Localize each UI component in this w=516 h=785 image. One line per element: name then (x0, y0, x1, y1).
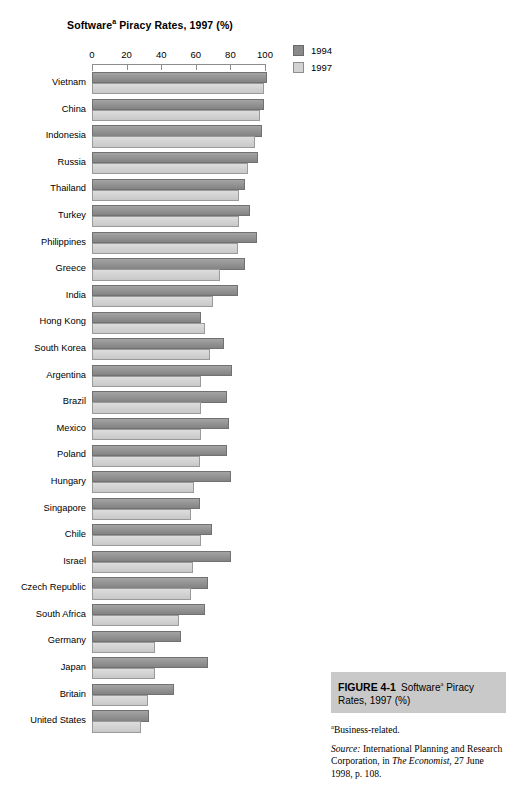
bar-fill (93, 419, 228, 428)
bar-1997-china (92, 110, 260, 121)
bar-fill (93, 563, 192, 572)
bar-1997-mexico (92, 429, 201, 440)
bar-fill (93, 126, 261, 135)
bar-fill (93, 217, 238, 226)
category-label-chile: Chile (0, 529, 86, 539)
bar-fill (93, 605, 204, 614)
bar-group (92, 656, 267, 683)
bar-fill (93, 658, 207, 667)
x-tick-label-60: 60 (181, 49, 211, 60)
bar-fill (93, 297, 212, 306)
category-label-south-korea: South Korea (0, 343, 86, 353)
bar-row: Britain (0, 683, 300, 710)
bar-fill (93, 350, 209, 359)
source-label: Source: (331, 743, 360, 754)
category-label-india: India (0, 290, 86, 300)
bar-row: Chile (0, 523, 300, 550)
bar-1997-brazil (92, 402, 201, 413)
category-label-hungary: Hungary (0, 476, 86, 486)
category-label-turkey: Turkey (0, 210, 86, 220)
category-label-russia: Russia (0, 157, 86, 167)
bar-fill (93, 392, 226, 401)
bar-group (92, 523, 267, 550)
bar-1994-indonesia (92, 125, 262, 136)
caption-header: FIGURE 4-1 Softwarea Piracy Rates, 1997 … (331, 672, 506, 713)
bar-group (92, 98, 267, 125)
bar-1994-russia (92, 152, 258, 163)
figure-number: FIGURE 4-1 (338, 681, 396, 693)
bar-1994-argentina (92, 365, 232, 376)
bar-1997-germany (92, 642, 155, 653)
bar-fill (93, 525, 211, 534)
bar-row: Japan (0, 656, 300, 683)
bar-fill (93, 366, 231, 375)
bar-fill (93, 73, 266, 82)
bar-1997-hong-kong (92, 323, 205, 334)
footnote-text: Business-related. (334, 724, 400, 735)
bar-row: Poland (0, 443, 300, 470)
bar-1997-indonesia (92, 136, 255, 147)
bar-row: Greece (0, 257, 300, 284)
bar-row: Indonesia (0, 124, 300, 151)
category-label-vietnam: Vietnam (0, 77, 86, 87)
bar-fill (93, 111, 259, 120)
category-label-south-africa: South Africa (0, 609, 86, 619)
bar-fill (93, 191, 238, 200)
bar-1997-israel (92, 562, 193, 573)
bar-group (92, 151, 267, 178)
category-label-greece: Greece (0, 263, 86, 273)
bar-row: Thailand (0, 177, 300, 204)
category-label-mexico: Mexico (0, 423, 86, 433)
bar-1997-philippines (92, 243, 238, 254)
bar-row: South Africa (0, 603, 300, 630)
source-italic-title: The Economist, (392, 755, 452, 766)
bar-fill (93, 552, 230, 561)
bar-group (92, 629, 267, 656)
bar-1997-vietnam (92, 83, 264, 94)
bar-1997-japan (92, 668, 155, 679)
x-tick-0 (92, 64, 93, 71)
bar-fill (93, 377, 200, 386)
bar-row: Germany (0, 629, 300, 656)
bar-row: Hungary (0, 470, 300, 497)
bar-fill (93, 313, 200, 322)
bar-group (92, 390, 267, 417)
bar-1997-south-africa (92, 615, 179, 626)
bar-fill (93, 270, 219, 279)
x-tick-label-20: 20 (112, 49, 142, 60)
caption-title-main: Software (401, 682, 440, 693)
bar-row: Czech Republic (0, 576, 300, 603)
bar-1997-thailand (92, 190, 239, 201)
category-label-germany: Germany (0, 635, 86, 645)
bar-fill (93, 578, 207, 587)
bar-group (92, 284, 267, 311)
bar-1994-germany (92, 631, 181, 642)
bar-fill (93, 446, 226, 455)
bar-1997-greece (92, 269, 220, 280)
bar-group (92, 683, 267, 710)
bar-group (92, 709, 267, 736)
bar-1997-south-korea (92, 349, 210, 360)
bar-row: Vietnam (0, 71, 300, 98)
bar-group (92, 417, 267, 444)
bar-1994-thailand (92, 179, 245, 190)
category-label-brazil: Brazil (0, 396, 86, 406)
x-tick-60 (196, 64, 197, 70)
category-label-indonesia: Indonesia (0, 130, 86, 140)
bar-group (92, 71, 267, 98)
category-label-china: China (0, 104, 86, 114)
bar-1994-china (92, 99, 264, 110)
x-tick-80 (230, 64, 231, 70)
bar-row: Philippines (0, 231, 300, 258)
bar-group (92, 497, 267, 524)
bar-fill (93, 510, 190, 519)
bar-1994-hungary (92, 471, 231, 482)
bar-row: Singapore (0, 497, 300, 524)
bar-1994-south-korea (92, 338, 224, 349)
category-label-israel: Israel (0, 556, 86, 566)
category-label-hong-kong: Hong Kong (0, 316, 86, 326)
bar-fill (93, 589, 190, 598)
category-label-philippines: Philippines (0, 237, 86, 247)
bar-fill (93, 632, 180, 641)
bar-row: Russia (0, 151, 300, 178)
